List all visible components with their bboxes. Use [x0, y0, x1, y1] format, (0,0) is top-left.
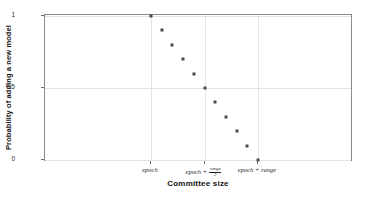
x-tick-mark [150, 161, 151, 164]
data-point [224, 115, 227, 118]
gridline-horizontal [45, 88, 351, 89]
fraction-range-over-two: range2 [209, 167, 222, 178]
data-point [246, 144, 249, 147]
data-point [192, 72, 195, 75]
x-tick-label: epoch + range2 [186, 167, 222, 178]
data-point [203, 87, 206, 90]
x-tick-label: epoch + range [238, 167, 276, 174]
data-point [182, 58, 185, 61]
y-tick-label: 0.5 [6, 84, 15, 91]
gridline-horizontal [45, 160, 351, 161]
data-point [160, 29, 163, 32]
gridline-horizontal [45, 16, 351, 17]
x-tick-mark [257, 161, 258, 164]
data-point [171, 43, 174, 46]
gridline-vertical [151, 15, 152, 160]
data-point [235, 130, 238, 133]
x-tick-mark [204, 161, 205, 164]
x-axis-title: Committee size [44, 179, 352, 188]
data-point [214, 101, 217, 104]
data-point [150, 15, 153, 18]
chart-figure: Probability of adding a new model 00.51 … [0, 0, 371, 202]
plot-area [44, 14, 352, 161]
gridline-vertical [258, 15, 259, 160]
y-tick-label: 1 [11, 12, 15, 19]
x-tick-label: epoch [142, 167, 158, 174]
y-tick-label: 0 [11, 156, 15, 163]
